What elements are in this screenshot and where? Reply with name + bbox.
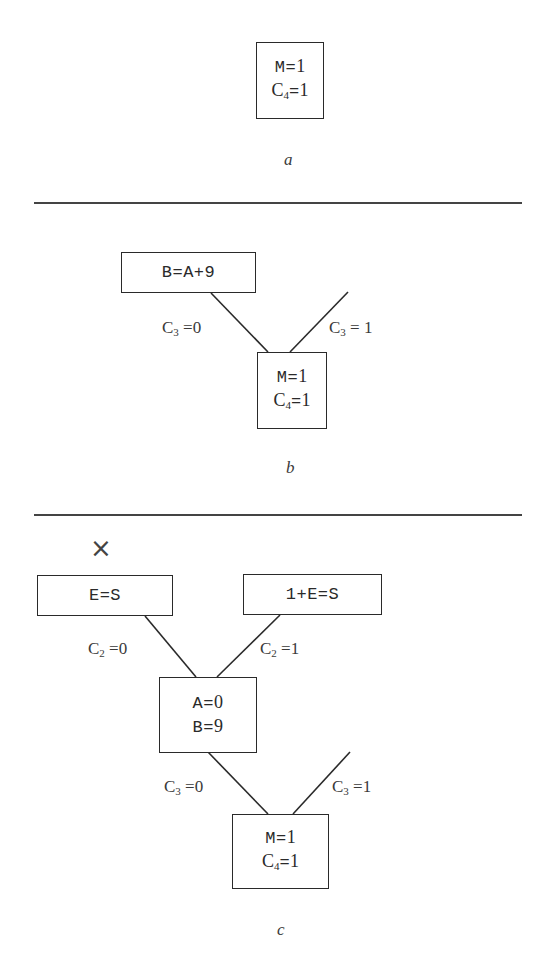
value: 1 [290, 851, 299, 871]
node-line: A=0 [193, 691, 224, 715]
node-c-left: E=S [37, 575, 173, 616]
equals-sign: = [279, 853, 290, 872]
subscript: 3 [343, 785, 349, 797]
edge-label-c2-left: C2 =0 [88, 639, 127, 659]
node-label: 1+E=S [286, 584, 340, 606]
node-line: M=1 [265, 826, 295, 850]
equals-sign: = [185, 777, 195, 796]
divider [34, 514, 522, 516]
divider [34, 202, 522, 204]
subscript: 2 [99, 647, 105, 659]
node-c-right: 1+E=S [243, 574, 382, 615]
value: 1 [291, 639, 300, 658]
value: 0 [214, 692, 224, 712]
equals-sign: = [281, 639, 291, 658]
panel-caption-b: b [286, 458, 295, 478]
equals-sign: = [288, 368, 299, 387]
panel-caption-c: c [277, 920, 285, 940]
variable: C [329, 318, 340, 337]
equals-sign: = [203, 718, 214, 737]
edge-label-c2-right: C2 =1 [260, 639, 299, 659]
variable: B [193, 718, 204, 737]
node-line: B=9 [193, 715, 224, 739]
node-line: C4=1 [271, 79, 308, 106]
value: 0 [195, 777, 204, 796]
node-c-root: M=1 C4=1 [232, 814, 329, 889]
node-c-mid: A=0 B=9 [159, 677, 257, 753]
variable: C [162, 318, 173, 337]
value: 0 [119, 639, 128, 658]
variable: M [275, 58, 286, 77]
node-line: M=1 [275, 55, 305, 79]
failure-cross-icon: × [90, 535, 112, 561]
value: 1 [363, 777, 372, 796]
edge-label-b-right: C3 = 1 [329, 318, 372, 338]
value: 9 [214, 716, 224, 736]
diagram-canvas: M=1 C4=1 a B=A+9 C3 =0 C3 = 1 M=1 C4=1 b… [0, 0, 544, 969]
variable: C [260, 639, 271, 658]
node-line: C4=1 [262, 850, 299, 877]
equals-sign: = [276, 829, 287, 848]
equals-sign: = [203, 694, 214, 713]
equals-sign: = [291, 392, 302, 411]
node-line: C4=1 [273, 389, 310, 416]
value: 1 [296, 56, 305, 76]
edge-label-b-left: C3 =0 [162, 318, 201, 338]
subscript: 3 [340, 326, 346, 338]
node-label: E=S [89, 585, 121, 607]
equals-sign: = [109, 639, 119, 658]
value: 1 [300, 80, 309, 100]
value: 1 [298, 366, 307, 386]
variable: M [265, 829, 276, 848]
subscript: 2 [271, 647, 277, 659]
equals-sign: = [350, 318, 360, 337]
panel-caption-a: a [284, 150, 293, 170]
variable: M [277, 368, 288, 387]
node-label: B=A+9 [162, 262, 216, 284]
node-b-root: M=1 C4=1 [257, 352, 327, 429]
subscript: 3 [173, 326, 179, 338]
edge-label-c3-left: C3 =0 [164, 777, 203, 797]
variable: C [271, 80, 283, 100]
equals-sign: = [289, 82, 300, 101]
subscript: 3 [175, 785, 181, 797]
node-line: M=1 [277, 365, 307, 389]
variable: C [262, 851, 274, 871]
node-a-root: M=1 C4=1 [256, 42, 324, 119]
value: 1 [287, 827, 296, 847]
variable: C [164, 777, 175, 796]
value: 1 [364, 318, 373, 337]
variable: C [273, 390, 285, 410]
equals-sign: = [353, 777, 363, 796]
equals-sign: = [286, 58, 297, 77]
node-b-child: B=A+9 [121, 252, 256, 293]
edge-label-c3-right: C3 =1 [332, 777, 371, 797]
equals-sign: = [183, 318, 193, 337]
value: 0 [193, 318, 202, 337]
variable: A [193, 694, 204, 713]
variable: C [332, 777, 343, 796]
value: 1 [302, 390, 311, 410]
variable: C [88, 639, 99, 658]
